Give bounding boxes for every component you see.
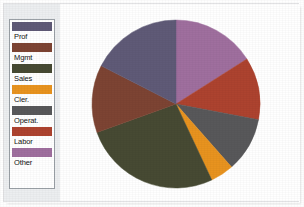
legend-label: Cler.	[12, 94, 52, 105]
legend-swatch	[12, 85, 52, 94]
legend-label: Prof	[12, 31, 52, 42]
legend-swatch	[12, 22, 52, 31]
legend-item: Sales	[12, 64, 52, 84]
legend-item: Cler.	[12, 85, 52, 105]
legend-label: Mgmt	[12, 52, 52, 63]
legend-item: Operat.	[12, 106, 52, 126]
legend-label: Labor	[12, 136, 52, 147]
legend-item: Prof	[12, 22, 52, 42]
chart-screenshot: ProfMgmtSalesCler.Operat.LaborOther	[0, 0, 304, 207]
legend-swatch	[12, 127, 52, 136]
legend-swatch	[12, 148, 52, 157]
legend-item: Labor	[12, 127, 52, 147]
chart-legend: ProfMgmtSalesCler.Operat.LaborOther	[9, 19, 55, 189]
legend-item: Other	[12, 148, 52, 168]
pie-chart-plot-area	[60, 4, 299, 201]
legend-swatch	[12, 64, 52, 73]
legend-swatch	[12, 43, 52, 52]
legend-label: Sales	[12, 73, 52, 84]
pie-chart-svg	[60, 4, 299, 201]
legend-label: Operat.	[12, 115, 52, 126]
legend-item: Mgmt	[12, 43, 52, 63]
legend-label: Other	[12, 157, 52, 168]
legend-swatch	[12, 106, 52, 115]
